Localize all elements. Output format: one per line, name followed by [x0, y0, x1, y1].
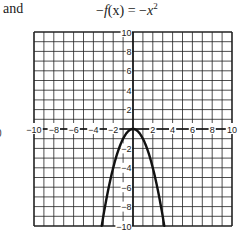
y-tick-label: 6 — [126, 66, 131, 76]
x-tick-label: 8 — [210, 125, 215, 135]
y-tick-label: −4 — [121, 163, 131, 173]
y-tick-label: 4 — [126, 86, 131, 96]
x-tick-label: −2 — [108, 125, 118, 135]
x-tick-label: −8 — [49, 125, 59, 135]
x-tick-label: 4 — [170, 125, 175, 135]
y-tick-label: −2 — [121, 144, 131, 154]
x-tick-label: 2 — [150, 125, 155, 135]
y-tick-label: 2 — [126, 105, 131, 115]
x-tick-label: −10 — [26, 125, 41, 135]
x-tick-label: −6 — [68, 125, 78, 135]
x-tick-label: 10 — [227, 125, 237, 135]
y-tick-label: 8 — [126, 47, 131, 57]
y-tick-label: −8 — [121, 202, 131, 212]
x-tick-label: 6 — [190, 125, 195, 135]
x-tick-label: −4 — [88, 125, 98, 135]
y-tick-label: 10 — [121, 28, 131, 38]
y-tick-label: −10 — [116, 222, 131, 232]
coordinate-grid-chart: −10−8−6−4−2246810108642−2−4−6−8−10 — [0, 0, 242, 238]
y-tick-label: −6 — [121, 183, 131, 193]
